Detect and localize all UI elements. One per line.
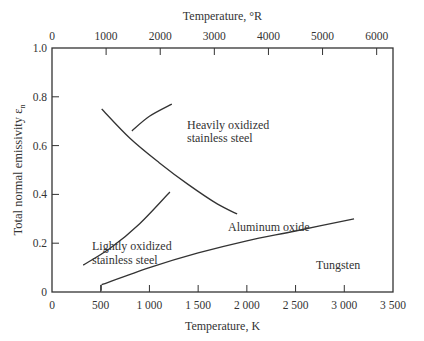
x-tick-label: 3 500 bbox=[380, 299, 406, 311]
x-tick-label: 1 000 bbox=[136, 299, 162, 311]
annotation-label-line2: stainless steel bbox=[92, 253, 158, 267]
y-tick-label: 0.4 bbox=[33, 188, 48, 200]
x2-tick-label: 2000 bbox=[149, 30, 172, 42]
x-axis-label: Temperature, K bbox=[185, 319, 260, 333]
x-tick-label: 500 bbox=[92, 299, 110, 311]
chart-labels: Temperature, KTemperature, °RTotal norma… bbox=[11, 9, 360, 333]
annotation-label: Aluminum oxide bbox=[228, 220, 310, 234]
emissivity-chart: 05001 0001 5002 0002 5003 0003 500010002… bbox=[0, 0, 424, 341]
y-tick-label: 0 bbox=[41, 286, 47, 298]
y-tick-label: 0.8 bbox=[33, 91, 48, 103]
x2-tick-label: 6000 bbox=[365, 30, 388, 42]
curve-heavily-oxidized-stainless-steel bbox=[132, 104, 172, 131]
x2-tick-label: 5000 bbox=[311, 30, 334, 42]
x2-tick-label: 0 bbox=[49, 30, 55, 42]
x2-tick-label: 4000 bbox=[257, 30, 280, 42]
annotation-label: Heavily oxidized bbox=[187, 118, 269, 132]
y-tick-label: 1.0 bbox=[33, 42, 48, 54]
annotation-label: Lightly oxidized bbox=[92, 239, 172, 253]
y-tick-label: 0.2 bbox=[33, 237, 48, 249]
x-tick-label: 0 bbox=[49, 299, 55, 311]
y-axis-label: Total normal emissivity εn bbox=[11, 105, 27, 236]
x-tick-label: 3 000 bbox=[331, 299, 357, 311]
x-tick-label: 2 500 bbox=[283, 299, 309, 311]
y-tick-label: 0.6 bbox=[33, 140, 48, 152]
x2-tick-label: 3000 bbox=[203, 30, 226, 42]
x-tick-label: 2 000 bbox=[234, 299, 260, 311]
x2-axis-label: Temperature, °R bbox=[183, 9, 262, 23]
x2-tick-label: 1000 bbox=[95, 30, 118, 42]
annotation-label-line2: stainless steel bbox=[187, 131, 253, 145]
annotation-label: Tungsten bbox=[316, 258, 360, 272]
x-tick-label: 1 500 bbox=[185, 299, 211, 311]
